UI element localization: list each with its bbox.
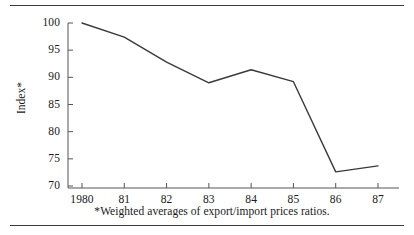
y-axis-title: Index*	[15, 63, 27, 133]
x-tick-label: 81	[102, 194, 146, 206]
y-tick-label: 85	[32, 99, 60, 111]
x-tick-label: 1980	[60, 194, 104, 206]
y-tick-label: 100	[32, 17, 60, 29]
y-tick-label: 70	[32, 180, 60, 192]
y-tick-label: 75	[32, 153, 60, 165]
x-tick-label: 82	[145, 194, 189, 206]
y-tick-label: 95	[32, 44, 60, 56]
x-tick-label: 83	[187, 194, 231, 206]
chart-footnote: *Weighted averages of export/import pric…	[0, 205, 414, 217]
y-tick-label: 80	[32, 126, 60, 138]
x-tick-label: 86	[314, 194, 358, 206]
x-axis-ticks	[82, 183, 378, 188]
x-tick-label: 85	[271, 194, 315, 206]
x-tick-label: 87	[356, 194, 400, 206]
y-tick-label: 90	[32, 71, 60, 83]
figure-container: 707580859095100 198081828384858687 Index…	[0, 0, 414, 235]
y-axis-ticks	[68, 23, 73, 186]
chart-axes	[68, 23, 399, 188]
data-series-line	[82, 23, 378, 172]
x-tick-label: 84	[229, 194, 273, 206]
